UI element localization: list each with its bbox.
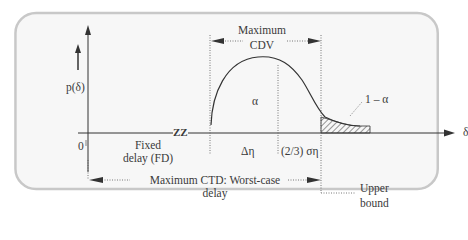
alpha-label: α [252, 95, 258, 108]
x-axis-label: δ [463, 126, 468, 139]
upper-bound-label: Upper bound [360, 182, 389, 210]
max-ctd-line2: delay [140, 187, 290, 200]
delta-eta-label: Δη [241, 145, 254, 158]
max-ctd-line1: Maximum CTD: Worst-case [140, 174, 290, 187]
origin-label: 0 [78, 140, 84, 153]
upper-bound-line2: bound [360, 197, 389, 210]
max-ctd-label: Maximum CTD: Worst-case delay [140, 174, 290, 200]
x-axis-arrow-icon [444, 130, 455, 137]
max-cdv-line1: Maximum [232, 24, 292, 37]
y-axis-label: p(δ) [66, 81, 85, 94]
fixed-delay-line1: Fixed [113, 139, 183, 152]
upper-bound-line1: Upper [360, 182, 389, 195]
break-marker: ZZ [173, 126, 188, 139]
fixed-delay-label: Fixed delay (FD) [113, 139, 183, 165]
max-cdv-line2: CDV [232, 39, 292, 52]
fixed-delay-line2: delay (FD) [113, 152, 183, 165]
one-minus-alpha-label: 1 – α [365, 93, 388, 106]
two-thirds-sigma-label: (2/3) ση [281, 145, 318, 158]
max-cdv-label: Maximum CDV [232, 24, 292, 52]
